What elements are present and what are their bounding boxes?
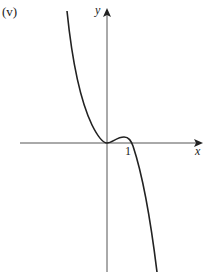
cubic-curve [67,11,157,272]
y-axis-label: y [95,4,100,16]
panel-label: (v) [2,5,17,18]
x-tick-label-1: 1 [125,145,131,157]
x-axis-label: x [195,145,200,157]
cubic-graph [0,0,207,272]
